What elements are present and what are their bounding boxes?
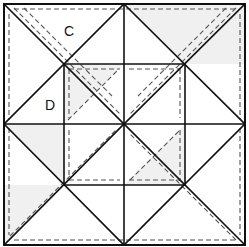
piece-label-c: C <box>64 23 74 39</box>
quilt-block-diagram: C D <box>0 0 249 247</box>
piece-outline-lines <box>4 4 245 245</box>
piece-label-d: D <box>45 97 55 113</box>
